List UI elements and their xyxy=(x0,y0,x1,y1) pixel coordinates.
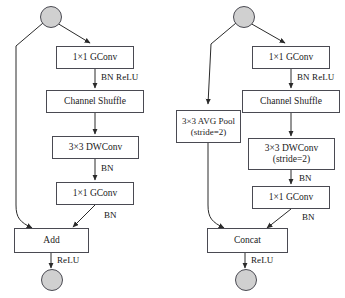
left-block-add-label: Add xyxy=(43,235,59,246)
left-skip-edge-start xyxy=(16,23,43,46)
left-block-channel-shuffle-label: Channel Shuffle xyxy=(64,96,126,107)
left-edge-gconv2-to-add xyxy=(73,205,95,227)
left-edge-label-bn-1: BN xyxy=(101,163,114,173)
right-edge-gconv2-to-concat xyxy=(267,209,291,228)
left-edge-label-bn-relu: BN ReLU xyxy=(101,72,138,82)
right-block-channel-shuffle-label: Channel Shuffle xyxy=(260,96,322,107)
right-output-node xyxy=(235,269,257,291)
right-edge-in-to-gconv1 xyxy=(250,23,285,43)
right-pool-edge-start xyxy=(211,23,236,44)
right-block-concat[interactable]: Concat xyxy=(207,228,288,253)
left-edge-label-relu-out: ReLU xyxy=(57,255,79,265)
left-block-gconv2[interactable]: 1×1 GConv xyxy=(56,182,134,205)
right-edge-label-relu-out: ReLU xyxy=(251,255,273,265)
right-block-channel-shuffle[interactable]: Channel Shuffle xyxy=(242,90,340,113)
right-block-avg-pool-label: 3×3 AVG Pool xyxy=(182,116,235,126)
left-skip-connection xyxy=(16,46,32,228)
left-edge-label-bn-2: BN xyxy=(104,210,117,220)
right-edge-label-bn-2: BN xyxy=(302,212,315,222)
right-edge-avgpool-to-concat xyxy=(208,143,224,228)
left-block-dwconv-label: 3×3 DWConv xyxy=(69,142,123,153)
right-block-gconv2[interactable]: 1×1 GConv xyxy=(252,186,330,209)
right-block-concat-label: Concat xyxy=(234,235,261,246)
right-block-dwconv-sublabel: (stride=2) xyxy=(273,154,311,165)
right-block-gconv2-label: 1×1 GConv xyxy=(269,192,314,203)
right-block-dwconv-label: 3×3 DWConv xyxy=(265,143,319,154)
right-block-gconv1[interactable]: 1×1 GConv xyxy=(252,46,330,69)
right-edge-label-bn-1: BN xyxy=(299,173,312,183)
left-output-node xyxy=(41,269,63,291)
left-block-channel-shuffle[interactable]: Channel Shuffle xyxy=(46,90,144,113)
right-edge-in-to-avgpool xyxy=(208,44,211,104)
left-edge-in-to-gconv1 xyxy=(57,23,90,43)
right-block-avg-pool-sublabel: (stride=2) xyxy=(191,127,227,137)
right-block-avg-pool[interactable]: 3×3 AVG Pool (stride=2) xyxy=(176,110,241,143)
left-block-add[interactable]: Add xyxy=(14,228,89,253)
left-input-node xyxy=(40,6,62,28)
left-block-dwconv[interactable]: 3×3 DWConv xyxy=(52,136,139,159)
right-block-dwconv[interactable]: 3×3 DWConv (stride=2) xyxy=(248,138,335,170)
right-edge-label-bn-relu: BN ReLU xyxy=(297,72,334,82)
left-block-gconv1[interactable]: 1×1 GConv xyxy=(56,46,134,69)
left-block-gconv2-label: 1×1 GConv xyxy=(73,188,118,199)
right-block-gconv1-label: 1×1 GConv xyxy=(269,52,314,63)
diagram-canvas: 1×1 GConv Channel Shuffle 3×3 DWConv 1×1… xyxy=(0,0,345,298)
left-block-gconv1-label: 1×1 GConv xyxy=(73,52,118,63)
right-input-node xyxy=(233,6,255,28)
